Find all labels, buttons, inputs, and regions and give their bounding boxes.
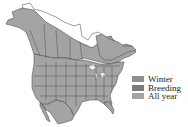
legend-swatch-winter bbox=[132, 76, 144, 82]
range-area-florida bbox=[104, 102, 114, 114]
legend: Winter Breeding All year bbox=[132, 75, 181, 101]
legend-swatch-breeding bbox=[132, 85, 144, 91]
legend-swatch-all-year bbox=[132, 93, 144, 99]
legend-label: All year bbox=[148, 92, 177, 101]
range-map bbox=[0, 0, 188, 127]
legend-item-all-year: All year bbox=[132, 92, 181, 101]
